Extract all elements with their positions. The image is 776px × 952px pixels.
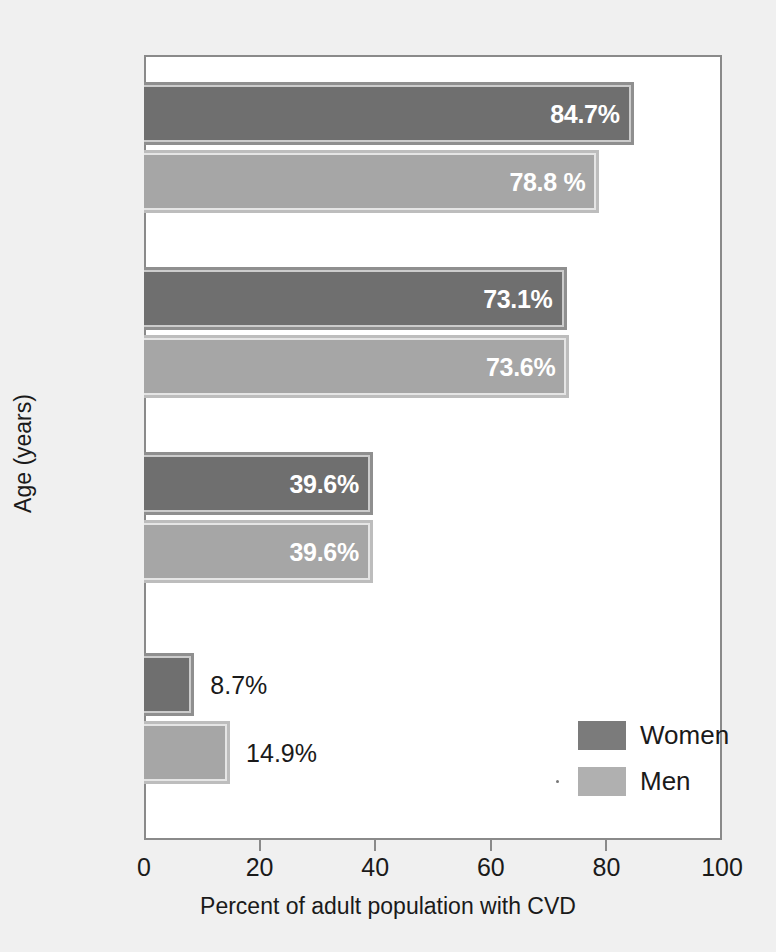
legend: Women Men xyxy=(578,712,729,804)
legend-label-women: Women xyxy=(640,720,729,751)
bar-80+-women: 84.7% xyxy=(144,82,634,145)
bar-value-label: 84.7% xyxy=(550,99,619,128)
bar-6079-men: 73.6% xyxy=(144,335,569,398)
x-tick-mark xyxy=(605,840,607,851)
x-tick-mark xyxy=(259,840,261,851)
bar-value-label: 73.6% xyxy=(486,352,555,381)
legend-label-men: Men xyxy=(640,766,691,797)
bar-fill xyxy=(144,653,194,716)
bar-4059-women: 39.6% xyxy=(144,452,373,515)
bar-value-label: 78.8 % xyxy=(509,167,585,196)
bar-4059-men: 39.6% xyxy=(144,520,373,583)
x-tick-label: 40 xyxy=(361,853,389,882)
bar-value-label: 8.7% xyxy=(210,670,267,699)
bar-6079-women: 73.1% xyxy=(144,267,567,330)
legend-swatch-women-icon xyxy=(578,721,626,750)
x-tick-label: 20 xyxy=(246,853,274,882)
legend-item-women: Women xyxy=(578,712,729,758)
legend-swatch-men-icon xyxy=(578,767,626,796)
x-tick-mark xyxy=(374,840,376,851)
bar-value-label: 14.9% xyxy=(246,738,317,767)
y-axis-title: Age (years) xyxy=(10,254,37,654)
x-tick-label: 60 xyxy=(477,853,505,882)
bar-2030-men xyxy=(144,721,230,784)
bar-80+-men: 78.8 % xyxy=(144,150,599,213)
x-tick-mark xyxy=(490,840,492,851)
x-axis-title: Percent of adult population with CVD xyxy=(0,893,776,920)
x-tick-label: 80 xyxy=(592,853,620,882)
bar-2030-women xyxy=(144,653,194,716)
bar-fill xyxy=(144,721,230,784)
x-tick-label: 100 xyxy=(701,853,743,882)
bar-value-label: 73.1% xyxy=(483,284,552,313)
x-tick-label: 0 xyxy=(137,853,151,882)
bar-value-label: 39.6% xyxy=(289,537,358,566)
chart-figure: 84.7%78.8 %73.1%73.6%39.6%39.6%8.7%14.9%… xyxy=(0,0,776,952)
bar-value-label: 39.6% xyxy=(289,469,358,498)
stray-dot-mark xyxy=(556,780,559,783)
legend-item-men: Men xyxy=(578,758,729,804)
